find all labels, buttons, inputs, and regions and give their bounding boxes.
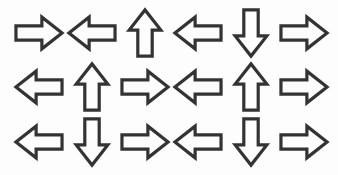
arrow-left-icon [15, 124, 63, 160]
arrow-outline [76, 119, 108, 165]
arrow-right-icon [15, 15, 63, 51]
arrow-grid [0, 0, 338, 175]
arrow-outline [15, 126, 61, 158]
arrow-up-icon [127, 9, 163, 57]
arrow-cell [65, 60, 118, 114]
arrow-up-icon [233, 63, 269, 111]
arrow-cell [118, 115, 171, 169]
arrow-left-icon [174, 69, 222, 105]
arrow-outline [174, 72, 220, 104]
arrow-cell [12, 60, 65, 114]
arrow-outline [76, 64, 108, 110]
arrow-left-icon [174, 15, 222, 51]
arrow-cell [171, 115, 224, 169]
arrow-cell [171, 6, 224, 60]
arrow-outline [174, 126, 220, 158]
arrow-outline [68, 17, 114, 49]
arrow-grid-canvas [0, 0, 338, 175]
arrow-right-icon [121, 69, 169, 105]
arrow-outline [280, 126, 326, 158]
arrow-outline [280, 72, 326, 104]
arrow-outline [235, 64, 267, 110]
arrow-cell [277, 6, 330, 60]
arrow-outline [235, 10, 267, 56]
arrow-right-icon [121, 124, 169, 160]
arrow-outline [121, 72, 167, 104]
arrow-outline [280, 17, 326, 49]
arrow-cell [171, 60, 224, 114]
arrow-cell [277, 115, 330, 169]
arrow-cell [224, 115, 277, 169]
arrow-cell [224, 6, 277, 60]
arrow-down-icon [233, 118, 269, 166]
arrow-right-icon [280, 124, 328, 160]
arrow-outline [121, 126, 167, 158]
arrow-cell [118, 6, 171, 60]
arrow-right-icon [280, 15, 328, 51]
arrow-left-icon [15, 69, 63, 105]
arrow-cell [65, 115, 118, 169]
arrow-cell [12, 6, 65, 60]
arrow-cell [65, 6, 118, 60]
arrow-cell [12, 115, 65, 169]
arrow-outline [174, 17, 220, 49]
arrow-outline [15, 17, 61, 49]
arrow-up-icon [74, 63, 110, 111]
arrow-outline [235, 119, 267, 165]
arrow-outline [129, 10, 161, 56]
arrow-left-icon [68, 15, 116, 51]
arrow-down-icon [74, 118, 110, 166]
arrow-down-icon [233, 9, 269, 57]
arrow-cell [277, 60, 330, 114]
arrow-cell [118, 60, 171, 114]
arrow-left-icon [174, 124, 222, 160]
arrow-cell [224, 60, 277, 114]
arrow-outline [15, 72, 61, 104]
arrow-right-icon [280, 69, 328, 105]
